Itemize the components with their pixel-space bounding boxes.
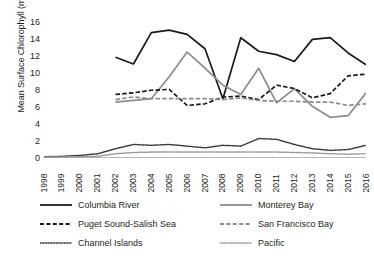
legend-line-swatch [40,219,72,228]
series-line [116,74,366,105]
series-line [44,139,366,157]
x-axis-ticks: 1998199920002001200220032004200520062007… [44,160,366,192]
y-tick-label: 14 [24,35,40,44]
plot-area [44,14,366,158]
legend-line-swatch [220,219,252,228]
chart-svg [44,14,366,158]
x-tick-label: 2010 [254,173,263,192]
legend-label: Puget Sound-Salish Sea [78,219,176,229]
legend-item: Channel Islands [40,234,143,251]
legend-line-swatch [220,200,252,209]
x-tick-label: 2014 [325,173,334,192]
legend-label: Channel Islands [78,238,143,248]
legend-line-swatch [40,238,72,247]
x-tick-label: 2004 [146,173,155,192]
x-tick-label: 2012 [289,173,298,192]
legend-item: Columbia River [40,196,140,213]
x-tick-label: 2016 [361,173,370,192]
chart-figure: Mean Surface Chlorophyll (mg m-3) 024681… [0,0,374,277]
series-line [116,52,366,117]
x-tick-label: 2006 [182,173,191,192]
series-line [116,97,366,105]
x-tick-label: 2009 [236,173,245,192]
chart-legend: Columbia RiverMonterey BayPuget Sound-Sa… [40,196,370,258]
legend-item: Puget Sound-Salish Sea [40,215,176,232]
y-tick-label: 12 [24,52,40,61]
x-tick-label: 2008 [218,173,227,192]
y-tick-label: 0 [24,154,40,163]
legend-label: San Francisco Bay [258,219,334,229]
x-tick-label: 2015 [343,173,352,192]
x-tick-label: 1998 [39,173,48,192]
x-tick-label: 1999 [57,173,66,192]
legend-item: Monterey Bay [220,196,314,213]
legend-label: Pacific [258,238,285,248]
y-tick-label: 6 [24,103,40,112]
legend-item: Pacific [220,234,285,251]
y-tick-label: 8 [24,86,40,95]
x-tick-label: 2001 [93,173,102,192]
x-tick-label: 2013 [307,173,316,192]
y-axis-ticks: 0246810121416 [22,0,40,172]
x-tick-label: 2003 [128,173,137,192]
x-tick-label: 2011 [272,174,281,192]
x-tick-label: 2000 [75,173,84,192]
y-tick-label: 16 [24,18,40,27]
legend-line-swatch [40,200,72,209]
legend-label: Columbia River [78,200,140,210]
x-tick-label: 2002 [111,173,120,192]
legend-label: Monterey Bay [258,200,314,210]
y-tick-label: 4 [24,120,40,129]
x-tick-label: 2007 [200,173,209,192]
legend-line-swatch [220,238,252,247]
legend-item: San Francisco Bay [220,215,334,232]
series-line [116,30,366,99]
y-tick-label: 10 [24,69,40,78]
y-tick-label: 2 [24,137,40,146]
x-tick-label: 2005 [164,173,173,192]
